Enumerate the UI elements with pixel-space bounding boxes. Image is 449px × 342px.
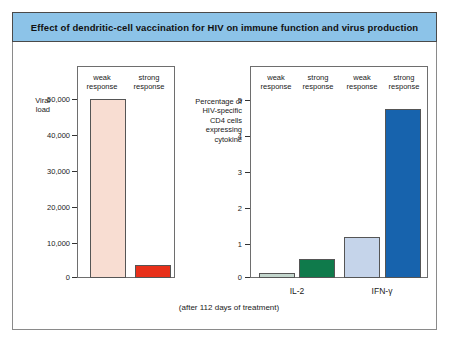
y-tick-label-1: 1 [230,241,242,249]
bar-label-line-1: strong [383,73,425,82]
bar-label-line-2: response [128,82,170,91]
y-tick-label-40000: 40,000 [26,132,70,140]
bar-label-line-1: strong [297,73,339,82]
y-tick-label-3: 3 [230,169,242,177]
bar-label-line-2: response [255,82,297,91]
y-axis-label-line-3: CD4 cells [176,116,242,125]
bar-viral-load-weak-response [90,99,126,278]
bar-label-il2-weak: weak response [255,73,297,92]
bar-label-ifng-strong: strong response [383,73,425,92]
bar-label-line-2: response [82,82,122,91]
bar-viral-load-strong-response [135,265,171,278]
y-tick-label-50000: 50,000 [26,96,70,104]
figure-root: Effect of dendritic-cell vaccination for… [0,0,449,342]
page-title: Effect of dendritic-cell vaccination for… [31,22,418,33]
bar-label-viral-strong: strong response [128,73,170,92]
bar-ifng-weak-response [344,237,380,278]
bar-label-il2-strong: strong response [297,73,339,92]
y-tick-label-2: 2 [230,205,242,213]
y-tick-label-20000: 20,000 [26,204,70,212]
y-tick-label-0: 0 [26,274,70,282]
x-axis-group-label-il2: IL-2 [272,286,322,296]
bar-label-line-1: weak [255,73,297,82]
y-tick-label-0: 0 [230,274,242,282]
bar-ifng-strong-response [385,109,421,278]
bar-label-line-1: weak [341,73,383,82]
y-tick-label-5: 5 [230,97,242,105]
figure-title-banner: Effect of dendritic-cell vaccination for… [12,12,437,42]
bar-label-line-1: strong [128,73,170,82]
bar-label-line-1: weak [82,73,122,82]
bar-label-line-2: response [297,82,339,91]
bar-il2-weak-response [259,273,295,278]
bar-label-viral-weak: weak response [82,73,122,92]
bar-label-line-2: response [383,82,425,91]
y-tick-label-4: 4 [230,133,242,141]
bar-label-line-2: response [341,82,383,91]
x-axis-group-label-ifng: IFN-γ [357,286,407,296]
y-tick-label-10000: 10,000 [26,240,70,248]
figure-footnote: (after 112 days of treatment) [129,303,329,312]
y-axis-label-line-2: HIV-specific [176,106,242,115]
y-axis-label-line-2: load [20,105,50,114]
bar-label-ifng-weak: weak response [341,73,383,92]
bar-il2-strong-response [299,259,335,278]
y-tick-label-30000: 30,000 [26,168,70,176]
